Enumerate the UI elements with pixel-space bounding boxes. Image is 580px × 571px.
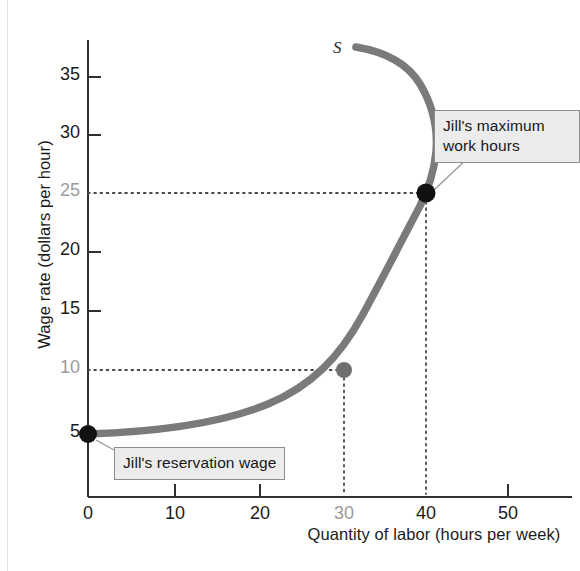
- x-tick-label-10: 10: [153, 503, 197, 524]
- x-axis-ticks: [175, 484, 508, 497]
- x-tick-label-30: 30: [322, 503, 366, 524]
- y-axis-title: Wage rate (dollars per hour): [35, 115, 54, 375]
- y-tick-label-35: 35: [36, 64, 80, 85]
- x-tick-label-50: 50: [486, 503, 530, 524]
- y-axis-ticks: [88, 77, 101, 311]
- marker-maximum-hours-point: [417, 184, 436, 203]
- x-tick-label-40: 40: [404, 503, 448, 524]
- marker-reservation-wage-point: [79, 425, 97, 443]
- callout-reservation-wage: Jill's reservation wage: [114, 447, 285, 480]
- marker-wage-10-point: [336, 362, 352, 378]
- callout-maximum-work-hours: Jill's maximum work hours: [434, 110, 580, 163]
- x-tick-label-20: 20: [238, 503, 282, 524]
- curve-label-S: S: [333, 38, 342, 58]
- x-axis-title: Quantity of labor (hours per week): [289, 525, 579, 544]
- supply-curve-S: [88, 47, 436, 434]
- x-tick-label-0: 0: [66, 503, 110, 524]
- y-tick-label-5: 5: [36, 421, 80, 442]
